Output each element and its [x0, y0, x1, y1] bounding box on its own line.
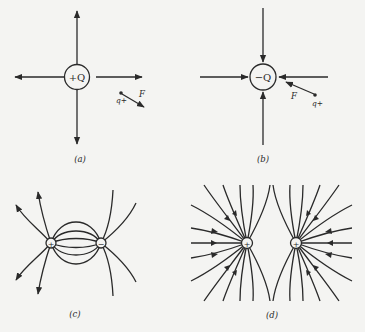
negative-sign: −	[98, 240, 105, 249]
force-label: F	[138, 89, 146, 99]
field-line	[51, 231, 101, 243]
caption-a: (a)	[74, 154, 86, 164]
field-line	[247, 243, 270, 301]
caption-b: (b)	[257, 154, 269, 164]
positive-sign: +	[48, 240, 55, 249]
positive-sign: +	[293, 240, 300, 249]
field-line	[273, 185, 296, 243]
field-line	[247, 185, 270, 243]
field-line	[51, 243, 101, 248]
electric-field-figure: +Q F q+ (a) −Q F q+ (b)	[0, 0, 365, 332]
positive-sign: +	[244, 240, 251, 249]
field-line	[51, 239, 101, 244]
test-charge-label: q+	[116, 96, 127, 105]
field-line	[101, 203, 136, 243]
panel-c-dipole: + − (c)	[16, 190, 136, 319]
test-charge-label: q+	[312, 99, 323, 108]
field-line	[101, 243, 136, 282]
force-label: F	[290, 91, 298, 101]
panel-a-positive-charge: +Q F q+ (a)	[15, 11, 146, 164]
field-line	[51, 243, 101, 255]
charge-label: +Q	[69, 72, 86, 83]
panel-d-like-charges: + + (d)	[191, 185, 352, 320]
field-line	[273, 243, 296, 301]
caption-c: (c)	[69, 309, 80, 319]
panel-b-negative-charge: −Q F q+ (b)	[200, 8, 328, 164]
caption-d: (d)	[266, 310, 278, 320]
charge-label: −Q	[255, 72, 272, 83]
